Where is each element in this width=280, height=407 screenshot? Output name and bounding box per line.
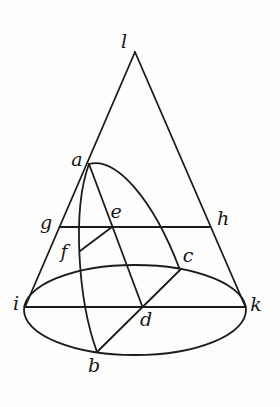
cone-section-diagram: l a g e h f c i k d b bbox=[0, 0, 280, 407]
base-circle-ellipse bbox=[24, 265, 246, 355]
base-chord-c-b bbox=[97, 270, 180, 352]
section-curve-back-a-f-b bbox=[79, 164, 97, 352]
point-label-h: h bbox=[217, 207, 229, 229]
point-label-i: i bbox=[13, 292, 19, 314]
point-label-f: f bbox=[58, 240, 70, 262]
point-label-b: b bbox=[88, 354, 100, 376]
section-diameter-a-d bbox=[89, 164, 143, 307]
ordinate-e-f bbox=[80, 227, 112, 251]
section-curve-front-a-c bbox=[89, 163, 180, 270]
point-label-a: a bbox=[71, 148, 82, 170]
point-label-e: e bbox=[110, 200, 121, 222]
cone-right-slant-l-k bbox=[135, 52, 246, 307]
point-label-l: l bbox=[121, 30, 127, 52]
point-label-d: d bbox=[140, 308, 152, 330]
point-label-k: k bbox=[250, 293, 262, 315]
point-label-c: c bbox=[183, 244, 194, 266]
diagram-label-layer: l a g e h f c i k d b bbox=[13, 30, 262, 376]
diagram-stroke-layer bbox=[24, 52, 246, 355]
point-label-g: g bbox=[40, 211, 52, 233]
scanned-figure-page: l a g e h f c i k d b bbox=[0, 0, 280, 407]
